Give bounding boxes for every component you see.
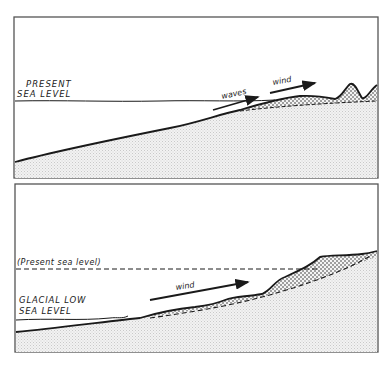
sea-level-label-2: SEA LEVEL (17, 89, 71, 99)
panel-glacial-low-sea-level: (Present sea level) GLACIAL LOW SEA LEVE… (15, 184, 378, 352)
glacial-label-2: SEA LEVEL (19, 306, 72, 316)
glacial-label-1: GLACIAL LOW (19, 295, 86, 305)
sea-level-label-1: PRESENT (26, 79, 72, 89)
present-sea-level-label: (Present sea level) (17, 258, 101, 267)
panel-present-sea-level: PRESENT SEA LEVEL waves wind (14, 17, 378, 178)
coastal-dune-diagram: PRESENT SEA LEVEL waves wind (Present se… (0, 0, 392, 365)
